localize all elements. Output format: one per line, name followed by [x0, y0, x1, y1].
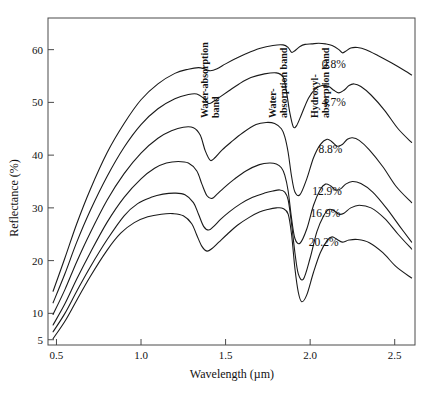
curve-series-group [53, 43, 412, 338]
y-tick-label-40: 40 [32, 149, 44, 161]
annotation-water-absorption-band-1400-line-2: band [210, 96, 221, 118]
annotation-water-absorption-band-1900-line-1: Water- [267, 88, 278, 118]
y-tick-label-30: 30 [32, 202, 44, 214]
x-tick-label-1.5: 1.5 [219, 349, 233, 361]
axis-ticks [48, 50, 395, 345]
curve-4-7pct [53, 73, 412, 303]
band-annotations: Water-absorptionbandWater-absorption ban… [199, 42, 331, 118]
y-tick-label-20: 20 [32, 255, 44, 267]
y-tick-label-5: 5 [38, 334, 44, 346]
annotation-water-absorption-band-1900-line-2: absorption band [278, 47, 289, 118]
y-tick-label-60: 60 [32, 44, 44, 56]
curve-16-9pct [53, 190, 412, 332]
x-tick-label-1.0: 1.0 [134, 349, 148, 361]
series-label-16-9pct: 16.9% [311, 207, 341, 219]
x-axis-title: Wavelength (µm) [190, 367, 274, 381]
curve-12-9pct [53, 161, 412, 324]
annotation-water-absorption-band-1400-line-1: Water-absorption [199, 42, 210, 118]
x-tick-label-2.0: 2.0 [303, 349, 317, 361]
curve-8-8pct [53, 122, 412, 314]
x-tick-label-0.5: 0.5 [50, 349, 64, 361]
chart-canvas: 0.51.01.52.02.5 5102030405060 0.8%4.7%8.… [0, 0, 434, 394]
y-tick-label-10: 10 [32, 307, 44, 319]
y-tick-label-50: 50 [32, 96, 44, 108]
curve-0-8pct [53, 43, 412, 291]
series-label-8-8pct: 8.8% [318, 143, 342, 155]
reflectance-spectra-figure: 0.51.01.52.02.5 5102030405060 0.8%4.7%8.… [0, 0, 434, 394]
curve-20-2pct [53, 208, 412, 339]
y-tick-labels: 5102030405060 [32, 44, 44, 346]
x-tick-labels: 0.51.01.52.02.5 [50, 349, 402, 361]
series-label-20-2pct: 20.2% [309, 236, 339, 248]
annotation-hydroxyl-absorption-band-2200-line-2: absorption band [320, 47, 331, 118]
x-tick-label-2.5: 2.5 [388, 349, 402, 361]
annotation-hydroxyl-absorption-band-2200-line-1: Hydroxyl- [309, 74, 320, 118]
series-label-12-9pct: 12.9% [312, 185, 342, 197]
y-axis-title: Reflectance (%) [7, 159, 21, 237]
